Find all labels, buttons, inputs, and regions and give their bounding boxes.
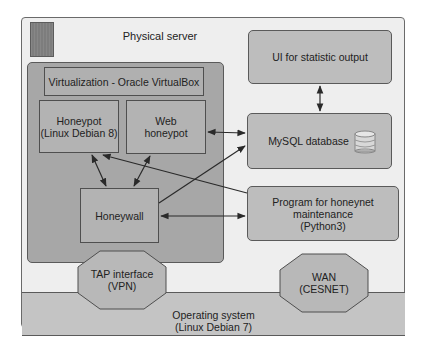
edge-program-honeypot <box>103 155 247 193</box>
edge-honeywall-mysql <box>159 146 245 203</box>
edge-webhoneypot-mysql <box>208 132 245 133</box>
edge-webhoneypot-honeywall <box>134 156 150 186</box>
connections-layer <box>0 0 424 363</box>
edge-honeypot-honeywall <box>92 155 106 186</box>
